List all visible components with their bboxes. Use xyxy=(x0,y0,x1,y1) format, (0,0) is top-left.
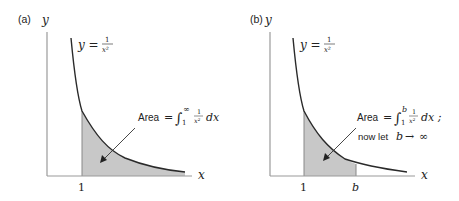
panel-b-dx: dx ; xyxy=(421,111,442,124)
panel-a-curve-label-den: x² xyxy=(102,46,109,54)
panel-b-x-axis-label: x xyxy=(421,168,428,182)
panel-a: (a) y y = 1 x² Area = ∫ ∞ 1 1 x² dx 1 x xyxy=(18,13,220,194)
panel-b-y-axis-label: y xyxy=(264,13,272,27)
panel-a-tick-1: 1 xyxy=(78,181,85,194)
panel-b-frac-den: x² xyxy=(409,117,416,125)
panel-a-frac-den: x² xyxy=(194,117,201,125)
panel-a-curve-label-lhs: y = xyxy=(77,38,99,52)
panel-b-line2-limit: ∞ xyxy=(419,130,428,143)
panel-b-curve-label-den: x² xyxy=(324,46,331,54)
panel-b-integral-lower: 1 xyxy=(401,119,405,127)
panel-a-dx: dx xyxy=(206,111,220,124)
panel-a-annotation-eq: = xyxy=(164,111,173,124)
figure-canvas: (a) y y = 1 x² Area = ∫ ∞ 1 1 x² dx 1 x … xyxy=(0,0,459,201)
panel-b-annotation-prefix: Area xyxy=(357,112,379,123)
panel-b-line2-arrow: → xyxy=(405,130,414,143)
panel-a-integral-lower: 1 xyxy=(182,119,186,127)
panel-a-integral-upper: ∞ xyxy=(183,105,190,114)
panel-a-curve-label-num: 1 xyxy=(105,36,109,44)
panel-b-frac-num: 1 xyxy=(412,108,416,116)
panel-b-tick-1: 1 xyxy=(300,181,307,194)
panel-a-x-axis-label: x xyxy=(198,168,205,182)
panel-a-frac-num: 1 xyxy=(197,108,201,116)
panel-b-line2-var: b xyxy=(396,130,403,143)
panel-b-pointer-line xyxy=(326,128,356,158)
panel-b-annotation-eq: = xyxy=(383,111,392,124)
panel-b: (b) y y = 1 x² Area = ∫ b 1 1 x² dx ; no… xyxy=(250,13,442,194)
panel-a-annotation-prefix: Area xyxy=(138,112,160,123)
panel-b-shaded-area xyxy=(304,111,356,176)
panel-b-label: (b) xyxy=(250,13,263,25)
panel-b-curve-label-lhs: y = xyxy=(299,38,321,52)
panel-b-tick-b: b xyxy=(352,181,359,194)
panel-a-y-axis-label: y xyxy=(41,13,49,27)
panel-b-line2-prefix: now let xyxy=(358,131,388,142)
panel-b-curve-label-num: 1 xyxy=(327,36,331,44)
panel-b-integral-upper: b xyxy=(402,105,407,114)
panel-a-label: (a) xyxy=(18,13,31,25)
